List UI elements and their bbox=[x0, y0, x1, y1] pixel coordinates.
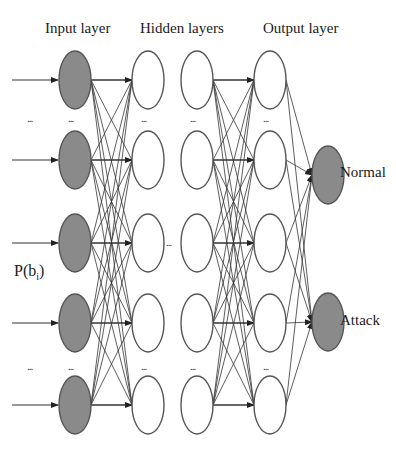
ellipsis-output-bottom: ... bbox=[263, 360, 268, 372]
edge bbox=[286, 80, 312, 175]
input-node bbox=[59, 131, 91, 189]
hidden1-node bbox=[132, 294, 164, 352]
hidden2-node bbox=[181, 51, 213, 109]
output-layer-node bbox=[254, 131, 286, 189]
output-label-attack: Attack bbox=[340, 312, 380, 329]
ellipsis-hidden2-bottom: ... bbox=[190, 360, 195, 372]
output-layer-node bbox=[254, 214, 286, 272]
hidden-layers-title: Hidden layers bbox=[140, 20, 224, 37]
output-layer-node bbox=[254, 294, 286, 352]
ellipsis-hidden-middle: ... bbox=[166, 236, 171, 248]
edge bbox=[286, 322, 312, 323]
output-layer-node bbox=[254, 51, 286, 109]
ellipsis-input-bottom: ... bbox=[68, 360, 73, 372]
hidden2-node bbox=[181, 131, 213, 189]
input-label-text: P(b bbox=[14, 262, 36, 279]
input-label: P(bi) bbox=[14, 262, 44, 282]
hidden2-node bbox=[181, 376, 213, 434]
edge bbox=[286, 175, 312, 323]
input-node bbox=[59, 376, 91, 434]
ellipsis-input-top: ... bbox=[68, 112, 73, 124]
input-node bbox=[59, 294, 91, 352]
output-layer-node bbox=[254, 376, 286, 434]
hidden2-node bbox=[181, 214, 213, 272]
ellipsis-output-top: ... bbox=[263, 112, 268, 124]
hidden1-node bbox=[132, 131, 164, 189]
hidden1-node bbox=[132, 214, 164, 272]
edge bbox=[286, 322, 312, 405]
input-node bbox=[59, 51, 91, 109]
input-node bbox=[59, 214, 91, 272]
output-layer-title: Output layer bbox=[263, 20, 338, 37]
ellipsis-hidden1-bottom: ... bbox=[141, 360, 146, 372]
ellipsis-hidden1-top: ... bbox=[141, 112, 146, 124]
input-label-close: ) bbox=[39, 262, 44, 279]
neural-network-diagram bbox=[0, 0, 396, 449]
hidden2-node bbox=[181, 294, 213, 352]
input-layer-title: Input layer bbox=[45, 20, 110, 37]
edge bbox=[286, 80, 312, 322]
ellipsis-input-arrows-bottom: ... bbox=[27, 360, 32, 372]
hidden1-node bbox=[132, 376, 164, 434]
ellipsis-hidden2-top: ... bbox=[190, 112, 195, 124]
ellipsis-input-arrows-top: ... bbox=[27, 112, 32, 124]
hidden1-node bbox=[132, 51, 164, 109]
output-label-normal: Normal bbox=[340, 164, 386, 181]
